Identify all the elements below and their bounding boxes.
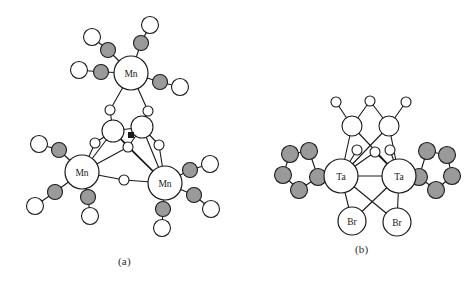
- panel-a-structure: MnMnMn: [27, 17, 220, 237]
- carbonyl-carbon-atom: [48, 185, 63, 200]
- bridging-oxygen-atom: [143, 106, 153, 116]
- carbonyl-carbon-atom: [101, 43, 116, 58]
- cp-carbon-atom: [275, 167, 292, 184]
- carbonyl-oxygen-atom: [31, 136, 48, 153]
- bridging-oxygen-atom: [385, 145, 395, 155]
- panel-b-cyclopentadienyl-rings: [275, 143, 461, 199]
- bridging-oxygen-atom: [90, 138, 100, 148]
- bridging-oxygen-atom: [370, 147, 380, 157]
- carbonyl-carbon-atom: [156, 202, 171, 217]
- panel-a-caption: (a): [118, 255, 131, 267]
- mn-top-label: Mn: [124, 69, 137, 79]
- carbonyl-carbon-atom: [379, 116, 399, 136]
- br-right-label: Br: [392, 218, 402, 228]
- br-left-label: Br: [347, 217, 357, 227]
- cp-carbon-atom: [428, 182, 445, 199]
- carbonyl-oxygen-atom: [142, 17, 159, 34]
- ta-right-label: Ta: [394, 172, 404, 182]
- cp-carbon-atom: [419, 143, 436, 160]
- carbonyl-carbon-atom: [94, 65, 109, 80]
- panel-b-metal-and-halide-centers: BrBrTaTa: [324, 159, 416, 236]
- core-bridging-atom: [131, 116, 153, 138]
- panel-b-caption: (b): [355, 243, 368, 255]
- cp-carbon-atom: [439, 147, 456, 164]
- carbonyl-oxygen-atom: [202, 156, 219, 173]
- cp-carbon-atom: [301, 143, 318, 160]
- bridging-oxygen-atom: [123, 142, 133, 152]
- bridging-oxygen-atom: [105, 105, 115, 115]
- bridging-oxygen-atom: [119, 175, 129, 185]
- carbonyl-oxygen-atom: [154, 220, 171, 237]
- carbonyl-oxygen-atom: [331, 97, 341, 107]
- carbonyl-carbon-atom: [134, 36, 149, 51]
- carbonyl-oxygen-atom: [71, 62, 88, 79]
- carbonyl-oxygen-atom: [203, 201, 220, 218]
- carbonyl-oxygen-atom: [172, 79, 189, 96]
- cp-carbon-atom: [444, 168, 461, 185]
- carbonyl-oxygen-atom: [84, 29, 101, 46]
- carbonyl-oxygen-atom: [82, 208, 99, 225]
- carbonyl-carbon-atom: [52, 143, 67, 158]
- carbonyl-carbon-atom: [342, 116, 362, 136]
- carbonyl-oxygen-atom: [401, 97, 411, 107]
- carbonyl-carbon-atom: [81, 190, 96, 205]
- mn-left-label: Mn: [75, 168, 88, 178]
- core-bridging-atom: [102, 120, 124, 142]
- panel-b-structure: BrBrTaTa: [275, 96, 461, 236]
- panel-b-carbonyl-and-oxygen-atoms: [331, 96, 411, 157]
- ta-left-label: Ta: [336, 172, 346, 182]
- core-marker: [129, 133, 134, 138]
- carbonyl-carbon-atom: [153, 75, 168, 90]
- mn-right-label: Mn: [158, 179, 171, 189]
- bridging-oxygen-atom: [352, 145, 362, 155]
- bridging-oxygen-atom: [154, 140, 164, 150]
- carbonyl-oxygen-atom: [365, 96, 375, 106]
- molecular-structure-figure: MnMnMn BrBrTaTa (a) (b): [0, 0, 473, 289]
- carbonyl-carbon-atom: [183, 163, 198, 178]
- cp-carbon-atom: [282, 146, 299, 163]
- carbonyl-carbon-atom: [187, 188, 202, 203]
- cp-carbon-atom: [291, 182, 308, 199]
- structure-canvas: MnMnMn BrBrTaTa: [0, 0, 473, 289]
- panel-b-bond-lines: [283, 101, 452, 222]
- carbonyl-oxygen-atom: [27, 198, 44, 215]
